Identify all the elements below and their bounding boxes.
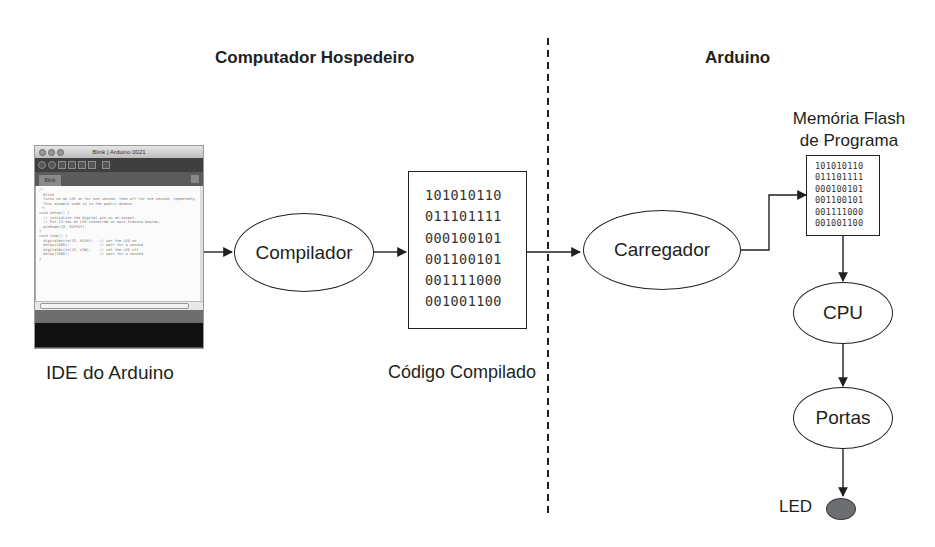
ide-toolbar [35, 158, 203, 172]
tab-menu-icon [191, 175, 199, 183]
ide-code-editor: /* Blink Turns on an LED on for one seco… [35, 186, 203, 301]
binary-row: 001111000 [425, 270, 526, 291]
binary-row: 011101111 [425, 206, 526, 227]
compiled-code-caption: Código Compilado [388, 362, 536, 383]
flash-memory-box: 1010101100111011110001001010011001010011… [806, 155, 880, 236]
binary-row: 001001100 [815, 218, 879, 229]
loader-node: Carregador [583, 210, 741, 290]
ide-window-title: Blink | Arduino 0021 [92, 149, 145, 155]
binary-row: 001001100 [425, 291, 526, 312]
binary-row: 101010110 [815, 161, 879, 172]
ide-bottom-bar [35, 347, 203, 349]
upload-icon [88, 161, 96, 169]
binary-row: 001100101 [425, 249, 526, 270]
device-section-title: Arduino [705, 48, 770, 68]
binary-row: 001100101 [815, 195, 879, 206]
loader-label: Carregador [614, 239, 710, 261]
compiler-label: Compilador [255, 242, 352, 264]
serial-monitor-icon [102, 161, 110, 169]
compiler-node: Compilador [234, 213, 374, 292]
open-icon [68, 161, 76, 169]
led-indicator [826, 498, 856, 520]
ide-horizontal-scrollbar [35, 301, 203, 310]
save-icon [78, 161, 86, 169]
verify-icon [38, 161, 46, 169]
binary-row: 000100101 [815, 184, 879, 195]
compiled-code-box: 1010101100111011110001001010011001010011… [408, 171, 527, 329]
host-section-title: Computador Hospedeiro [215, 48, 414, 68]
led-label: LED [779, 497, 812, 517]
code-line: } [39, 257, 197, 262]
cpu-label: CPU [823, 302, 863, 324]
arduino-ide-screenshot: Blink | Arduino 0021 Blink /* Blink Turn… [34, 145, 204, 349]
cpu-node: CPU [793, 282, 893, 344]
ide-console [35, 323, 203, 347]
ide-status-bar [35, 310, 203, 323]
ports-node: Portas [793, 387, 893, 449]
ports-label: Portas [816, 407, 871, 429]
stop-icon [48, 161, 56, 169]
ide-tab-blink: Blink [39, 175, 61, 186]
ide-tabs: Blink [35, 172, 203, 186]
binary-row: 101010110 [425, 185, 526, 206]
binary-row: 001111000 [815, 207, 879, 218]
flash-memory-caption: Memória Flash de Programa [774, 108, 924, 152]
ide-title-bar: Blink | Arduino 0021 [35, 146, 203, 158]
binary-row: 011101111 [815, 172, 879, 183]
new-icon [58, 161, 66, 169]
binary-row: 000100101 [425, 228, 526, 249]
flash-caption-line2: de Programa [774, 130, 924, 152]
ide-caption: IDE do Arduino [46, 362, 174, 384]
flash-caption-line1: Memória Flash [774, 108, 924, 130]
window-controls [39, 149, 64, 156]
